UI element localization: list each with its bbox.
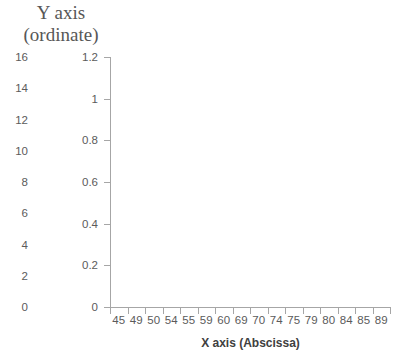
- primary-y-axis-scale: 1.210.80.60.40.20: [56, 57, 102, 307]
- secondary-y-tick-label: 16: [15, 51, 28, 63]
- y-axis-title: Y axis (ordinate): [2, 2, 120, 46]
- x-axis-title: X axis (Abscissa): [110, 336, 391, 350]
- secondary-y-tick-label: 12: [15, 114, 28, 126]
- primary-y-tick-label: 0.8: [82, 134, 98, 146]
- primary-y-tick-label: 0.4: [82, 218, 98, 230]
- secondary-y-tick-label: 6: [22, 207, 28, 219]
- x-tick-label: 84: [340, 314, 353, 326]
- x-tick-label: 55: [182, 314, 195, 326]
- y-axis-title-line-1: Y axis: [2, 2, 120, 24]
- x-tick-label: 79: [305, 314, 318, 326]
- y-axis-tick: [104, 224, 110, 225]
- primary-y-tick-label: 1.2: [82, 51, 98, 63]
- x-tick-label: 54: [165, 314, 178, 326]
- secondary-y-tick-label: 10: [15, 145, 28, 157]
- y-axis-tick: [104, 182, 110, 183]
- y-axis-tick: [104, 265, 110, 266]
- y-axis-tick: [104, 57, 110, 58]
- secondary-y-tick-label: 0: [22, 301, 28, 313]
- x-axis-tick: [390, 308, 391, 314]
- y-axis-tick: [104, 99, 110, 100]
- x-tick-label: 69: [235, 314, 248, 326]
- plot-area: [110, 57, 390, 307]
- y-axis-tick: [104, 140, 110, 141]
- secondary-y-tick-label: 14: [15, 82, 28, 94]
- x-tick-label: 59: [200, 314, 213, 326]
- primary-y-tick-label: 1: [92, 93, 98, 105]
- primary-y-tick-label: 0.2: [82, 259, 98, 271]
- x-tick-label: 49: [130, 314, 143, 326]
- x-tick-label: 60: [217, 314, 230, 326]
- secondary-y-tick-label: 4: [22, 239, 28, 251]
- x-tick-label: 74: [270, 314, 283, 326]
- y-axis-title-line-2: (ordinate): [2, 24, 120, 46]
- secondary-y-axis-scale: 1614121086420: [0, 57, 34, 307]
- x-tick-label: 45: [112, 314, 125, 326]
- x-tick-label: 70: [252, 314, 265, 326]
- x-tick-label: 75: [287, 314, 300, 326]
- secondary-y-tick-label: 8: [22, 176, 28, 188]
- y-axis-line: [110, 57, 111, 308]
- chart-canvas: Y axis (ordinate) 1614121086420 1.210.80…: [0, 0, 406, 356]
- x-tick-label: 89: [375, 314, 388, 326]
- x-tick-label: 50: [147, 314, 160, 326]
- x-tick-label: 85: [357, 314, 370, 326]
- primary-y-tick-label: 0: [92, 301, 98, 313]
- primary-y-tick-label: 0.6: [82, 176, 98, 188]
- x-tick-label: 80: [322, 314, 335, 326]
- x-axis-tick-labels: 45495054555960697074757980848589: [110, 314, 390, 330]
- secondary-y-tick-label: 2: [22, 270, 28, 282]
- y-axis-tick-marks: [104, 57, 110, 308]
